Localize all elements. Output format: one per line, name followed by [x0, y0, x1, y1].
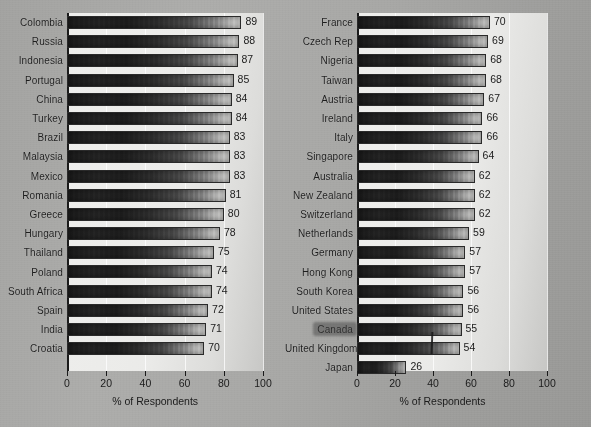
bar-value-label: 54: [464, 341, 476, 353]
bar-value-label: 70: [208, 341, 220, 353]
bar-row: Italy66: [285, 128, 560, 147]
bar-value-label: 88: [243, 34, 255, 46]
bar-track: 67: [357, 90, 560, 109]
bar: [67, 93, 232, 106]
bar-row: Brazil83: [0, 128, 280, 147]
x-axis-tick: [106, 371, 107, 376]
bar-track: 66: [357, 128, 560, 147]
bar-track: 84: [67, 109, 280, 128]
bar-row: Canada55: [285, 320, 560, 339]
x-axis-tick-label: 80: [503, 377, 515, 389]
bar: [357, 35, 488, 48]
bar: [357, 304, 463, 317]
x-axis-tick: [263, 371, 264, 376]
bar-category-label: Brazil: [0, 132, 67, 143]
left-chart-panel: Colombia89Russia88Indonesia87Portugal85C…: [0, 0, 280, 427]
bar: [357, 170, 475, 183]
bar-row: Australia62: [285, 167, 560, 186]
bar-track: 55: [357, 320, 560, 339]
bar: [357, 112, 482, 125]
bar-value-label: 62: [479, 207, 491, 219]
x-axis-title: % of Respondents: [400, 395, 486, 407]
bar-category-label: Taiwan: [285, 75, 357, 86]
x-axis-tick-label: 0: [64, 377, 70, 389]
bar-category-label: Spain: [0, 305, 67, 316]
bar-value-label: 64: [483, 149, 495, 161]
bar-track: 74: [67, 262, 280, 281]
bar-track: 68: [357, 51, 560, 70]
bar-track: 59: [357, 224, 560, 243]
bar-row: Czech Rep69: [285, 32, 560, 51]
bar-category-label: Portugal: [0, 75, 67, 86]
bar-value-label: 56: [467, 303, 479, 315]
x-axis-tick: [185, 371, 186, 376]
bar: [67, 131, 230, 144]
bar-row: Austria67: [285, 90, 560, 109]
bar-row: Spain72: [0, 301, 280, 320]
bar: [67, 74, 234, 87]
bar-value-label: 57: [469, 245, 481, 257]
bar-track: 62: [357, 167, 560, 186]
bar-category-label: China: [0, 94, 67, 105]
bar: [67, 150, 230, 163]
bar-category-label: South Africa: [0, 286, 67, 297]
bar: [67, 246, 214, 259]
bar-track: 88: [67, 32, 280, 51]
x-axis-tick-label: 80: [218, 377, 230, 389]
bar-category-label: India: [0, 324, 67, 335]
x-axis-tick: [395, 371, 396, 376]
bar-row: Switzerland62: [285, 205, 560, 224]
bar-track: 72: [67, 301, 280, 320]
bar: [67, 285, 212, 298]
bar-track: 83: [67, 128, 280, 147]
x-axis-tick-label: 100: [254, 377, 272, 389]
bar: [67, 342, 204, 355]
bar-value-label: 62: [479, 169, 491, 181]
bar: [67, 16, 241, 29]
bar-value-label: 78: [224, 226, 236, 238]
bar-row: Portugal85: [0, 71, 280, 90]
bar-rows-left: Colombia89Russia88Indonesia87Portugal85C…: [0, 13, 280, 358]
bar-row: Germany57: [285, 243, 560, 262]
bar-row: Russia88: [0, 32, 280, 51]
bar-value-label: 83: [234, 149, 246, 161]
bar: [357, 93, 484, 106]
chart-figure: Colombia89Russia88Indonesia87Portugal85C…: [0, 0, 591, 427]
bar-category-label: Austria: [285, 94, 357, 105]
bar: [67, 265, 212, 278]
x-axis-tick: [145, 371, 146, 376]
bar-category-label: Indonesia: [0, 55, 67, 66]
bar: [357, 285, 463, 298]
bar-category-label: Croatia: [0, 343, 67, 354]
bar-row: Ireland66: [285, 109, 560, 128]
bar-value-label: 56: [467, 284, 479, 296]
bar-category-label: Romania: [0, 190, 67, 201]
bar: [67, 304, 208, 317]
x-axis-tick: [224, 371, 225, 376]
x-axis-tick-label: 40: [427, 377, 439, 389]
bar-value-label: 83: [234, 169, 246, 181]
x-axis-tick-label: 60: [465, 377, 477, 389]
bar-value-label: 59: [473, 226, 485, 238]
bar-row: Mexico83: [0, 167, 280, 186]
bar-category-label: Nigeria: [285, 55, 357, 66]
bar-row: New Zealand62: [285, 186, 560, 205]
bar-row: Hong Kong57: [285, 262, 560, 281]
bar-category-label: Germany: [285, 247, 357, 258]
bar-category-label: Malaysia: [0, 151, 67, 162]
bar: [67, 35, 239, 48]
bar-track: 69: [357, 32, 560, 51]
bar-category-label: Hong Kong: [285, 267, 357, 278]
bar-value-label: 68: [490, 53, 502, 65]
bar-track: 78: [67, 224, 280, 243]
bar: [357, 54, 486, 67]
bar-value-label: 81: [230, 188, 242, 200]
bar: [357, 227, 469, 240]
bar: [357, 323, 462, 336]
bar: [67, 54, 238, 67]
x-axis-tick-label: 0: [354, 377, 360, 389]
bar-track: 83: [67, 167, 280, 186]
bar-category-label: Colombia: [0, 17, 67, 28]
bar: [357, 150, 479, 163]
bar-category-label: Canada: [285, 324, 357, 335]
